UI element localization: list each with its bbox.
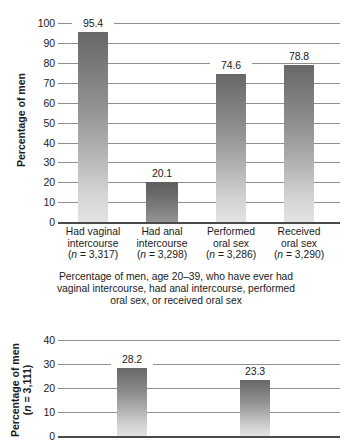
chart1-xcat-0-n: 3,317 [89, 249, 115, 260]
chart2-ytick-dash-20 [58, 388, 70, 389]
chart1-ytick-label-70: 70 [26, 78, 55, 88]
chart1-xcat-1-line3: (n = 3,298) [127, 249, 197, 261]
chart2-ytick-label-10: 10 [26, 407, 55, 417]
chart2-ytick-label-0: 0 [26, 431, 55, 441]
chart1-xcat-2-n: 3,286 [227, 249, 253, 260]
chart1-xcat-3-line1: Received [264, 226, 334, 238]
chart2-ytick-dash-30 [58, 364, 70, 365]
chart2-bar-2 [240, 380, 270, 436]
chart1-value-label-1: 20.1 [141, 168, 183, 179]
chart2-ytick-label-40: 40 [26, 335, 55, 345]
chart1-bar-received-oral-sex [284, 65, 314, 222]
chart1-value-label-2: 74.6 [210, 60, 252, 71]
chart2-value-label-1: 23.3 [234, 366, 276, 377]
chart1-xcat-2-line2: oral sex [196, 238, 266, 250]
chart1-ytick-dash-90 [58, 43, 70, 44]
chart1-x-axis-line [58, 222, 340, 224]
chart1-caption: Percentage of men, age 20–39, who have e… [26, 271, 326, 308]
chart1-ytick-label-60: 60 [26, 98, 55, 108]
chart1-bar-performed-oral-sex [216, 74, 246, 222]
chart1-caption-line1: Percentage of men, age 20–39, who have e… [26, 271, 326, 283]
chart1-xcat-0-line2: intercourse [58, 238, 128, 250]
chart1-bar-had-anal-intercourse [146, 182, 178, 222]
chart1-ytick-dash-50 [58, 123, 70, 124]
chart2-bar-1 [117, 368, 147, 436]
chart2-gridline-20 [62, 388, 340, 389]
chart1-ytick-label-80: 80 [26, 58, 55, 68]
chart1-xcat-2-line1: Performed [196, 226, 266, 238]
chart1-ytick-label-50: 50 [26, 118, 55, 128]
chart1-ytick-dash-80 [58, 63, 70, 64]
chart2-ytick-dash-10 [58, 412, 70, 413]
chart1-xcat-had-anal-intercourse: Had anal intercourse (n = 3,298) [127, 226, 197, 261]
chart1-ytick-dash-100 [58, 23, 70, 24]
chart1-ytick-dash-20 [58, 182, 70, 183]
chart1-ytick-dash-40 [58, 143, 70, 144]
chart1-ytick-dash-30 [58, 162, 70, 163]
chart2-plot-area: 28.2 23.3 40 30 20 10 0 [0, 318, 350, 445]
chart1-xcat-1-line1: Had anal [127, 226, 197, 238]
chart1-caption-line3: oral sex, or received oral sex [26, 295, 326, 307]
chart2-gridline-30 [62, 364, 340, 365]
chart1-ytick-label-30: 30 [26, 157, 55, 167]
chart1-value-label-3: 78.8 [278, 51, 320, 62]
chart1-ytick-label-0: 0 [26, 217, 55, 227]
chart1-xcat-3-line3: (n = 3,290) [264, 249, 334, 261]
chart1-xcat-0-line3: (n = 3,317) [58, 249, 128, 261]
chart1-xcat-had-vaginal-intercourse: Had vaginal intercourse (n = 3,317) [58, 226, 128, 261]
chart-men-sexual-behavior-ever: Percentage of men 95.4 20.1 74.6 78.8 10… [0, 0, 350, 310]
chart1-ytick-dash-10 [58, 202, 70, 203]
chart2-gridline-40 [62, 340, 340, 341]
chart2-x-axis-line [58, 436, 340, 438]
chart1-xcat-1-n: 3,298 [158, 249, 184, 260]
chart1-ytick-dash-70 [58, 83, 70, 84]
chart1-xcat-received-oral-sex: Received oral sex (n = 3,290) [264, 226, 334, 261]
chart1-plot-area: 95.4 20.1 74.6 78.8 100 90 80 70 60 50 4… [0, 0, 350, 232]
chart1-value-label-0: 95.4 [72, 18, 114, 29]
chart2-ytick-label-20: 20 [26, 383, 55, 393]
chart2-value-label-0: 28.2 [111, 354, 153, 365]
chart1-ytick-label-100: 100 [26, 18, 55, 28]
chart1-ytick-label-90: 90 [26, 38, 55, 48]
chart1-ytick-label-10: 10 [26, 197, 55, 207]
chart1-xcat-3-n: 3,290 [295, 249, 321, 260]
chart1-ytick-dash-60 [58, 103, 70, 104]
chart1-xcat-0-line1: Had vaginal [58, 226, 128, 238]
chart1-xcat-performed-oral-sex: Performed oral sex (n = 3,286) [196, 226, 266, 261]
chart-men-sexual-behavior-partial: Percentage of men (n = 3,111) 28.2 23.3 … [0, 318, 350, 445]
chart1-caption-line2: vaginal intercourse, had anal intercours… [26, 283, 326, 295]
chart1-xcat-3-line2: oral sex [264, 238, 334, 250]
chart2-ytick-label-30: 30 [26, 359, 55, 369]
chart1-xcat-1-line2: intercourse [127, 238, 197, 250]
chart1-bar-had-vaginal-intercourse [78, 32, 108, 222]
chart2-gridline-10 [62, 412, 340, 413]
chart1-ytick-label-20: 20 [26, 177, 55, 187]
chart2-ytick-dash-40 [58, 340, 70, 341]
chart1-ytick-label-40: 40 [26, 138, 55, 148]
chart1-xcat-2-line3: (n = 3,286) [196, 249, 266, 261]
